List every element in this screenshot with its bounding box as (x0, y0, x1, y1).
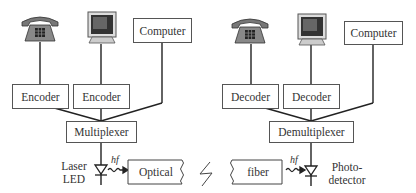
telephone-icon (232, 19, 268, 43)
sink-computer-box: Computer (344, 21, 403, 45)
multiplexer-box: Multiplexer (66, 121, 137, 143)
computer-monitor-icon (88, 12, 116, 43)
computer-label: Computer (351, 27, 397, 39)
optical-label: Optical (134, 166, 178, 178)
fiber-label: fiber (238, 166, 278, 178)
multiplexer-label: Multiplexer (74, 126, 128, 138)
encoder-label: Encoder (82, 91, 120, 103)
led-label: LED (56, 173, 92, 185)
computer-monitor-icon (298, 14, 326, 45)
hf-label-right: hf (290, 154, 298, 165)
encoder-box-2: Encoder (73, 84, 130, 109)
hf-label-left: hf (111, 154, 119, 165)
encoder-box-1: Encoder (12, 84, 69, 109)
computer-label: Computer (140, 25, 186, 37)
photodetector-diode-icon (305, 166, 317, 176)
photon-arrow-icon (108, 167, 128, 173)
detector-label: detector (322, 174, 372, 186)
laser-label: Laser (56, 160, 92, 172)
laser-led-diode-icon (95, 165, 107, 175)
photo-label: Photo- (322, 161, 372, 173)
decoder-label: Decoder (231, 91, 270, 103)
break-symbol-icon (200, 162, 212, 186)
telephone-icon (22, 17, 58, 41)
source-computer-box: Computer (133, 18, 192, 43)
photon-arrow-icon (286, 167, 305, 173)
demultiplexer-label: Demultiplexer (278, 126, 344, 138)
decoder-box-1: Decoder (222, 84, 279, 109)
demultiplexer-box: Demultiplexer (269, 121, 354, 143)
decoder-label: Decoder (292, 91, 331, 103)
encoder-label: Encoder (21, 91, 59, 103)
decoder-box-2: Decoder (283, 84, 340, 109)
